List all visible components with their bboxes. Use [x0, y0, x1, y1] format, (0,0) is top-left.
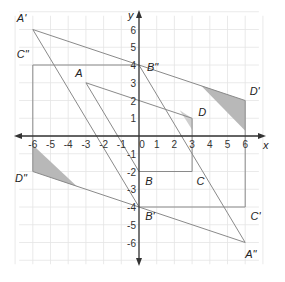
point-label: D": [15, 172, 28, 184]
point-label: C": [17, 48, 30, 60]
x-tick-label: -5: [46, 139, 55, 150]
y-tick-label: 5: [130, 42, 136, 53]
shaded-triangle-double-prime: [33, 145, 77, 187]
x-tick-label: -2: [99, 139, 108, 150]
x-tick-label: 2: [172, 139, 178, 150]
x-tick-label: 4: [207, 139, 213, 150]
x-tick-label: 5: [225, 139, 231, 150]
y-axis-label: y: [127, 9, 135, 21]
y-tick-label: -3: [127, 184, 136, 195]
point-label: C: [197, 175, 205, 187]
x-tick-label: 0: [139, 139, 145, 150]
point-label: A': [16, 12, 27, 24]
coordinate-plane: x y -6-5-4-3-2-10123456-6-5-4-3-2-112345…: [0, 0, 285, 282]
point-label: B: [145, 175, 152, 187]
point-label: D: [198, 106, 206, 118]
point-label: A": [244, 248, 257, 260]
point-label: D': [250, 85, 261, 97]
x-tick-label: 6: [242, 139, 248, 150]
x-axis-label: x: [262, 139, 269, 151]
y-tick-label: 3: [130, 78, 136, 89]
shaded-triangle-original: [180, 110, 192, 130]
x-tick-label: -6: [28, 139, 37, 150]
point-label: C': [251, 210, 262, 222]
point-label: B': [145, 210, 155, 222]
point-label: B": [147, 61, 159, 73]
x-tick-label: -3: [81, 139, 90, 150]
y-tick-label: -6: [127, 238, 136, 249]
y-tick-label: 2: [130, 96, 136, 107]
y-tick-label: 6: [130, 25, 136, 36]
y-tick-label: -2: [127, 167, 136, 178]
y-axis-down-arrow-icon: [136, 258, 142, 266]
y-tick-label: 1: [130, 113, 136, 124]
shaded-triangle-prime: [201, 85, 245, 130]
y-tick-label: -5: [127, 220, 136, 231]
point-label: A: [74, 67, 82, 79]
y-axis-up-arrow-icon: [136, 10, 142, 18]
x-tick-label: -4: [64, 139, 73, 150]
x-tick-label: 3: [189, 139, 195, 150]
y-tick-label: -4: [127, 202, 136, 213]
y-tick-label: -1: [127, 149, 136, 160]
x-tick-label: 1: [154, 139, 160, 150]
y-tick-label: 4: [130, 60, 136, 71]
x-tick-label: -1: [117, 139, 126, 150]
